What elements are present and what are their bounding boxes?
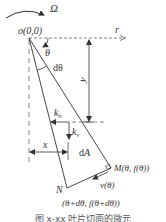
N-coords-label: (θ+dθ, f(θ+dθ)) (62, 198, 120, 208)
y-label: y (76, 76, 88, 85)
theta-label: θ (45, 47, 50, 58)
kh-label: kh (54, 107, 61, 119)
dA-label: dA (79, 147, 91, 158)
kv-label: kv (72, 126, 79, 138)
x-label: x (42, 139, 48, 150)
rotation-arrow-icon (6, 11, 44, 18)
blade-section-diagram: Ω o(0,0) r θ dθ y kh kv x dA v(θ) M(θ, f… (0, 0, 166, 222)
figure-caption: 图 x-xx 叶片切面的微元 (0, 212, 166, 222)
origin-label: o(0,0) (18, 25, 43, 37)
N-point-label: N (55, 184, 64, 195)
theta-arc (43, 38, 48, 47)
rotation-label: Ω (50, 2, 58, 14)
M-point-label: M(θ, f(θ)) (113, 163, 149, 173)
dtheta-label: dθ (53, 62, 63, 73)
velocity-label: v(θ) (100, 180, 114, 190)
edge-to-M (29, 38, 111, 168)
r-axis-label: r (115, 24, 119, 35)
dtheta-arc (37, 66, 47, 70)
